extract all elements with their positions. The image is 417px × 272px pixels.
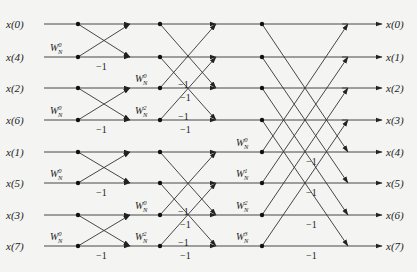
negation-label: −1 (178, 111, 189, 122)
twiddle-stage3: W2N (236, 199, 249, 213)
node-dot (158, 86, 162, 90)
output-label: x(1) (385, 51, 404, 64)
node-dot (76, 118, 80, 122)
input-label: x(3) (5, 209, 24, 222)
negation-label: −1 (306, 156, 317, 167)
twiddle-stage2: W0N (135, 72, 148, 86)
node-dot (158, 118, 162, 122)
node-dot (76, 181, 80, 185)
twiddle-stage3: W0N (236, 136, 249, 150)
negation-label: −1 (178, 206, 189, 217)
output-label: x(3) (385, 114, 404, 127)
input-label: x(1) (5, 146, 24, 159)
negation-label: −1 (178, 237, 189, 248)
node-dot (260, 150, 264, 154)
node-dot (158, 181, 162, 185)
negation-label: −1 (180, 92, 191, 103)
input-label: x(6) (5, 114, 24, 127)
labels: −1−1−1−1−1−1−1−1−1−1−1−1−1−1−1−1W0NW0NW0… (5, 18, 404, 261)
negation-label: −1 (180, 250, 191, 261)
twiddle-stage2: W2N (135, 104, 148, 118)
node-dot (260, 118, 264, 122)
negation-label: −1 (180, 219, 191, 230)
node-dot (260, 55, 264, 59)
twiddle-stage2: W2N (135, 230, 148, 244)
node-dot (158, 22, 162, 26)
twiddle-stage1: W0N (50, 167, 63, 181)
output-label: x(6) (385, 209, 404, 222)
node-dot (158, 244, 162, 248)
negation-label: −1 (96, 61, 107, 72)
twiddle-stage1: W0N (50, 104, 63, 118)
node-dot (76, 150, 80, 154)
node-dots (76, 22, 264, 248)
input-label: x(0) (5, 18, 24, 31)
negation-label: −1 (96, 250, 107, 261)
node-dot (76, 86, 80, 90)
output-label: x(5) (385, 177, 404, 190)
input-label: x(2) (5, 82, 24, 95)
node-dot (260, 181, 264, 185)
negation-label: −1 (306, 219, 317, 230)
negation-label: −1 (306, 187, 317, 198)
node-dot (76, 244, 80, 248)
output-label: x(4) (385, 146, 404, 159)
negation-label: −1 (306, 250, 317, 261)
input-label: x(7) (5, 240, 24, 253)
negation-label: −1 (178, 79, 189, 90)
twiddle-stage1: W0N (50, 230, 63, 244)
output-label: x(2) (385, 82, 404, 95)
node-dot (76, 213, 80, 217)
node-dot (260, 244, 264, 248)
node-dot (158, 55, 162, 59)
twiddle-stage1: W0N (50, 41, 63, 55)
input-label: x(5) (5, 177, 24, 190)
output-label: x(7) (385, 240, 404, 253)
input-label: x(4) (5, 51, 24, 64)
node-dot (76, 22, 80, 26)
output-label: x(0) (385, 18, 404, 31)
node-dot (260, 22, 264, 26)
negation-label: −1 (96, 187, 107, 198)
node-dot (158, 213, 162, 217)
twiddle-stage2: W0N (135, 199, 148, 213)
node-dot (158, 150, 162, 154)
node-dot (260, 213, 264, 217)
fft-butterfly-diagram: −1−1−1−1−1−1−1−1−1−1−1−1−1−1−1−1W0NW0NW0… (0, 0, 417, 272)
negation-label: −1 (96, 124, 107, 135)
node-dot (76, 55, 80, 59)
twiddle-stage3: W3N (236, 230, 249, 244)
twiddle-stage3: W1N (236, 167, 249, 181)
signal-wires (44, 24, 382, 246)
node-dot (260, 86, 264, 90)
negation-label: −1 (180, 124, 191, 135)
